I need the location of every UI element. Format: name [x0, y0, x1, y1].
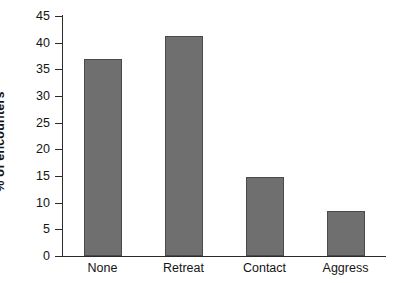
x-axis-tick-labels: NoneRetreatContactAggress — [62, 259, 386, 281]
bar — [327, 211, 365, 256]
y-tick-mark — [55, 16, 62, 17]
y-tick-mark — [55, 43, 62, 44]
x-tick-label: None — [58, 261, 148, 275]
plot-area — [62, 16, 386, 256]
y-tick-mark — [55, 203, 62, 204]
y-axis-title: % of encounters — [0, 0, 28, 283]
x-tick-label: Aggress — [301, 261, 391, 275]
bar — [84, 59, 122, 256]
bar-chart: % of encounters 051015202530354045 NoneR… — [0, 0, 398, 283]
bar — [165, 36, 203, 256]
y-tick-mark — [55, 256, 62, 257]
y-tick-mark — [55, 69, 62, 70]
y-tick-mark — [55, 229, 62, 230]
y-tick-mark — [55, 149, 62, 150]
x-tick-label: Contact — [220, 261, 310, 275]
y-tick-mark — [55, 176, 62, 177]
x-tick-label: Retreat — [139, 261, 229, 275]
bar — [246, 177, 284, 256]
y-tick-mark — [55, 123, 62, 124]
y-tick-mark — [55, 96, 62, 97]
x-axis-line — [62, 256, 386, 257]
